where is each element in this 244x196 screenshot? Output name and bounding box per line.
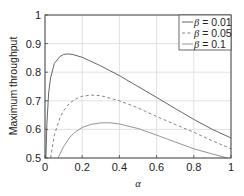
y-tick-label: 0.9 bbox=[26, 38, 41, 50]
legend-label: = 0.1 bbox=[199, 38, 226, 50]
y-tick-label: 0.5 bbox=[26, 152, 41, 164]
y-tick-label: 0.6 bbox=[26, 123, 41, 135]
x-tick-label: 0.4 bbox=[112, 161, 127, 173]
series-line-1 bbox=[51, 95, 231, 158]
x-tick-label: 0.2 bbox=[75, 161, 90, 173]
x-tick-label: 1 bbox=[228, 161, 234, 173]
x-tick-label: 0 bbox=[42, 161, 48, 173]
y-axis-label: Maximum throughput bbox=[7, 37, 19, 136]
throughput-chart: 00.20.40.60.810.50.60.70.80.91 Maximum t… bbox=[0, 0, 244, 196]
x-tick-label: 0.8 bbox=[186, 161, 201, 173]
y-tick-label: 1 bbox=[35, 9, 41, 21]
y-tick-label: 0.8 bbox=[26, 66, 41, 78]
legend: β = 0.01 β = 0.05 β = 0.1 bbox=[179, 15, 232, 50]
x-tick-label: 0.6 bbox=[149, 161, 164, 173]
series-line-0 bbox=[46, 54, 231, 158]
series-lines bbox=[46, 54, 231, 158]
y-tick-label: 0.7 bbox=[26, 95, 41, 107]
x-axis-label: α bbox=[135, 178, 141, 189]
series-line-2 bbox=[58, 123, 227, 158]
svg-text:β = 0.1: β = 0.1 bbox=[193, 38, 226, 50]
